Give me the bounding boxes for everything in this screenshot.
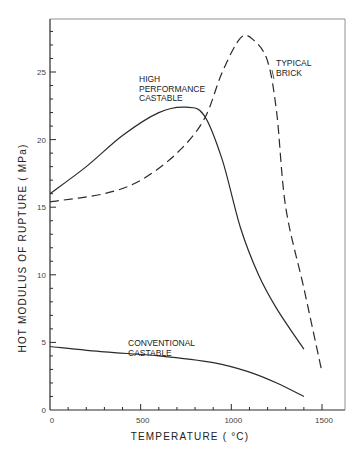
annotation-line: HIGH (139, 74, 160, 84)
annotation-line: BRICK (276, 68, 302, 78)
annotation-conventional-castable: CONVENTIONALCASTABLE (128, 338, 195, 358)
annotation-line: TYPICAL (276, 58, 312, 68)
x-tick-label: 0 (50, 416, 55, 425)
x-tick-label: 1000 (224, 416, 242, 425)
y-tick-label: 0 (42, 406, 47, 415)
y-axis-title: HOT MODULUS OF RUPTURE ( MPa) (17, 143, 28, 352)
y-tick-label: 10 (37, 271, 46, 280)
typical-brick-leader (272, 70, 274, 79)
annotation-line: CONVENTIONAL (128, 338, 195, 348)
annotation-line: CASTABLE (128, 348, 172, 358)
y-tick-label: 15 (37, 203, 46, 212)
x-tick-label: 1500 (315, 416, 333, 425)
annotation-line: PERFORMANCE (139, 84, 205, 94)
y-tick-label: 5 (42, 338, 47, 347)
x-tick-label: 500 (136, 416, 150, 425)
series-conventional-castable (50, 347, 304, 397)
annotation-typical-brick: TYPICALBRICK (276, 58, 312, 78)
y-tick-label: 25 (37, 68, 46, 77)
x-axis-title: TEMPERATURE ( °C) (131, 431, 250, 442)
series-high-performance-castable (50, 107, 304, 349)
annotations: HIGHPERFORMANCECASTABLETYPICALBRICKCONVE… (128, 58, 312, 358)
annotation-line: CASTABLE (139, 93, 183, 103)
chart-canvas: 0510152025050010001500 HIGHPERFORMANCECA… (0, 0, 364, 453)
annotation-high-performance-castable: HIGHPERFORMANCECASTABLE (139, 74, 205, 103)
y-tick-label: 20 (37, 136, 46, 145)
